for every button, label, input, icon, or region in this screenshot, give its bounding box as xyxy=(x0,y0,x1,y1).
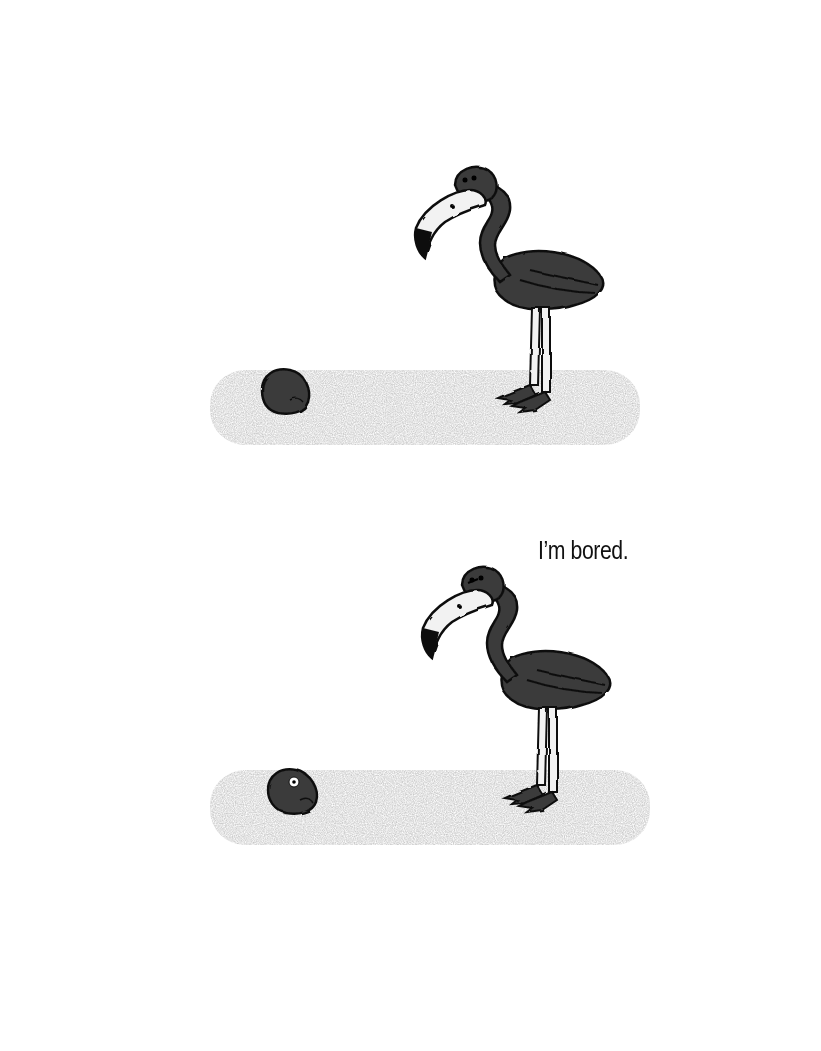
speech-text: I’m bored. xyxy=(538,536,628,565)
rock xyxy=(262,369,309,413)
comic-canvas xyxy=(0,0,821,1051)
panel-1 xyxy=(210,167,640,445)
panel-2 xyxy=(210,567,650,845)
rock-with-eye xyxy=(268,769,317,813)
